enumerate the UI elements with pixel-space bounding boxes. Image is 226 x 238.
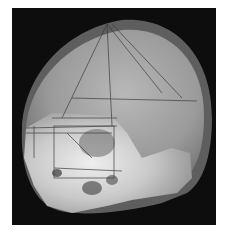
skull-render xyxy=(12,8,216,225)
image-frame xyxy=(12,8,216,225)
nasal-cavity xyxy=(82,181,102,195)
